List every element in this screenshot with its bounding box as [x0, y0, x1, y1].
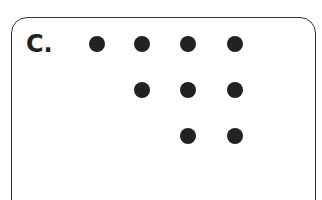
- dot: [134, 36, 150, 52]
- dot: [89, 36, 105, 52]
- dot: [227, 128, 243, 144]
- dot: [180, 128, 196, 144]
- panel-card: [11, 17, 316, 200]
- panel-label: C.: [26, 30, 53, 58]
- dot: [180, 82, 196, 98]
- dot: [180, 36, 196, 52]
- dot: [134, 82, 150, 98]
- dot: [227, 82, 243, 98]
- dot: [227, 36, 243, 52]
